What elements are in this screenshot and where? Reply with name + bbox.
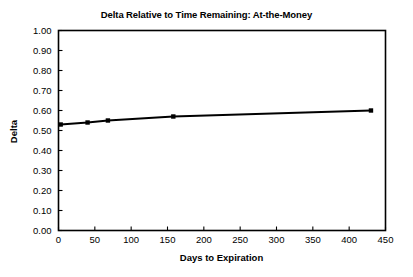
data-point-marker bbox=[85, 120, 89, 124]
y-axis-title-wrap: Delta bbox=[6, 104, 20, 164]
x-tick-label: 0 bbox=[56, 234, 61, 245]
y-axis-title: Delta bbox=[8, 109, 19, 155]
y-tick-label: 0.10 bbox=[33, 205, 52, 216]
y-tick-label: 0.20 bbox=[33, 185, 52, 196]
x-tick-label: 200 bbox=[196, 234, 212, 245]
x-tick-label: 450 bbox=[378, 234, 394, 245]
y-tick-label: 1.00 bbox=[33, 25, 52, 36]
data-point-marker bbox=[58, 122, 62, 126]
y-tick-label: 0.90 bbox=[33, 45, 52, 56]
y-tick-label: 0.40 bbox=[33, 145, 52, 156]
y-tick-label: 0.70 bbox=[33, 85, 52, 96]
y-tick-label: 0.50 bbox=[33, 125, 52, 136]
y-tick-label: 0.80 bbox=[33, 65, 52, 76]
y-tick-label: 0.60 bbox=[33, 105, 52, 116]
data-point-marker bbox=[369, 108, 373, 112]
plot-area: 0.000.100.200.300.400.500.600.700.800.90… bbox=[0, 0, 413, 277]
x-tick-label: 250 bbox=[232, 234, 248, 245]
x-tick-label: 350 bbox=[305, 234, 321, 245]
chart-container: Delta Relative to Time Remaining: At-the… bbox=[0, 0, 413, 277]
y-tick-label: 0.00 bbox=[33, 225, 52, 236]
data-point-marker bbox=[171, 114, 175, 118]
plot-frame bbox=[59, 31, 386, 231]
x-tick-label: 400 bbox=[341, 234, 357, 245]
x-tick-label: 100 bbox=[123, 234, 139, 245]
data-point-marker bbox=[106, 118, 110, 122]
x-tick-label: 300 bbox=[269, 234, 285, 245]
x-axis-title: Days to Expiration bbox=[0, 252, 413, 263]
x-tick-label: 150 bbox=[160, 234, 176, 245]
x-tick-label: 50 bbox=[90, 234, 101, 245]
y-tick-label: 0.30 bbox=[33, 165, 52, 176]
